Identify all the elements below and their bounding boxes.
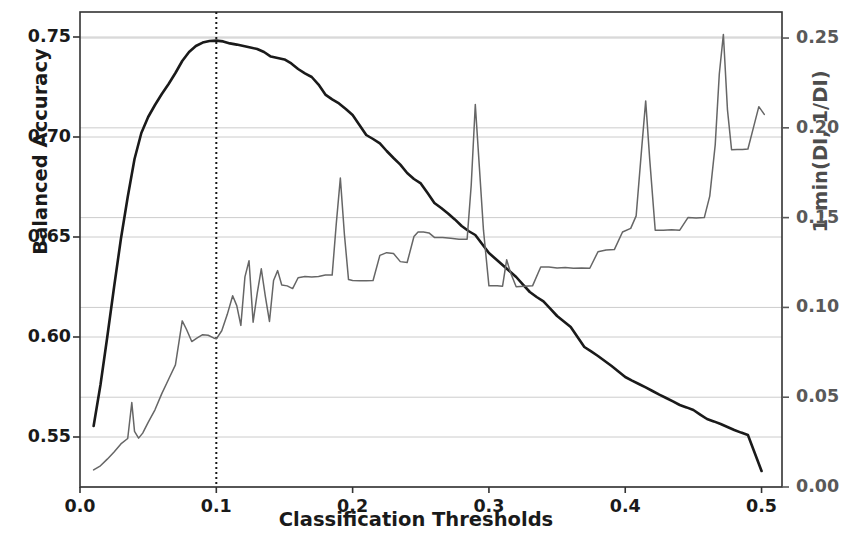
series-line: [94, 41, 762, 471]
plot-canvas: [0, 0, 857, 538]
y-tick-left-0.60: 0.60: [1, 326, 71, 346]
y-tick-right-0.25: 0.25: [796, 27, 857, 47]
y-tick-left-0.55: 0.55: [1, 426, 71, 446]
y-axis-right-title: 1-min(DI, 1/DI): [809, 22, 832, 282]
y-tick-right-0.15: 0.15: [796, 207, 857, 227]
x-tick-0.5: 0.5: [727, 496, 797, 516]
x-tick-0.4: 0.4: [590, 496, 660, 516]
y-tick-left-0.70: 0.70: [1, 126, 71, 146]
y-tick-right-0.10: 0.10: [796, 296, 857, 316]
plot-frame: [80, 12, 782, 487]
y-tick-left-0.65: 0.65: [1, 226, 71, 246]
tick-marks: [73, 37, 789, 493]
x-tick-0.3: 0.3: [454, 496, 524, 516]
y-tick-right-0.20: 0.20: [796, 117, 857, 137]
y-tick-right-0.05: 0.05: [796, 386, 857, 406]
x-tick-0.1: 0.1: [181, 496, 251, 516]
data-series: [94, 34, 765, 471]
chart-figure: Balanced Accuracy 1-min(DI, 1/DI) Classi…: [0, 0, 857, 538]
y-tick-left-0.75: 0.75: [1, 26, 71, 46]
y-tick-right-0.00: 0.00: [796, 476, 857, 496]
x-tick-0.0: 0.0: [45, 496, 115, 516]
grid-lines: [80, 37, 782, 487]
series-line: [94, 34, 765, 469]
x-tick-0.2: 0.2: [318, 496, 388, 516]
